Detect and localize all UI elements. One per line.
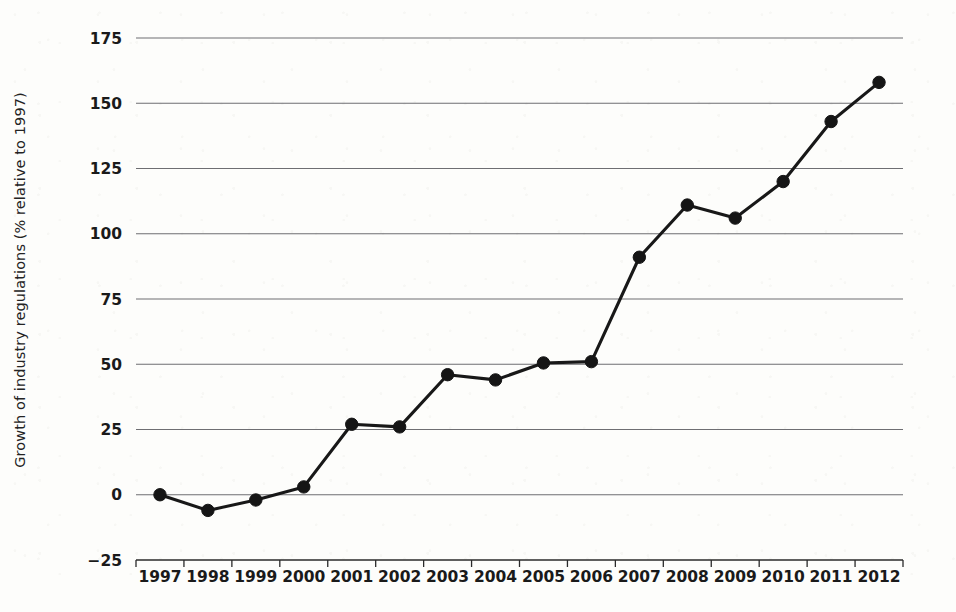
y-axis-tick-label: 125 <box>90 160 122 178</box>
data-point-marker <box>154 489 166 501</box>
y-axis-tick-label: 175 <box>90 30 122 48</box>
x-axis-tick-label: 1999 <box>234 568 277 586</box>
chart-container: Growth of industry regulations (% relati… <box>0 0 956 612</box>
data-point-marker <box>346 418 358 430</box>
data-point-marker <box>777 175 789 187</box>
data-point-marker <box>298 481 310 493</box>
x-axis-tick-labels: 1997199819992000200120022003200420052006… <box>138 568 900 586</box>
x-axis-tick-label: 2007 <box>618 568 661 586</box>
y-axis-tick-label: 75 <box>100 291 122 309</box>
x-axis-tick-label: 2000 <box>282 568 325 586</box>
x-axis-tick-label: 2003 <box>426 568 469 586</box>
x-axis-tick-label: 2011 <box>810 568 853 586</box>
x-axis-tick-label: 2002 <box>378 568 421 586</box>
data-point-marker <box>729 212 741 224</box>
data-point-marker <box>489 374 501 386</box>
data-series-line <box>160 82 879 510</box>
x-axis-tick-label: 2001 <box>330 568 373 586</box>
y-axis-tick-label: 25 <box>100 421 122 439</box>
x-axis-tick-label: 2010 <box>762 568 805 586</box>
data-point-markers <box>154 76 885 516</box>
x-axis-tick-label: 2006 <box>570 568 613 586</box>
data-point-marker <box>441 368 453 380</box>
data-point-marker <box>681 199 693 211</box>
data-point-marker <box>537 357 549 369</box>
data-point-marker <box>202 504 214 516</box>
x-axis-tick-label: 1998 <box>186 568 229 586</box>
x-axis-tick-label: 2012 <box>857 568 900 586</box>
data-point-marker <box>873 76 885 88</box>
y-axis-tick-label: 150 <box>90 95 123 113</box>
gridlines-group <box>136 38 903 495</box>
x-axis-tick-label: 2008 <box>666 568 709 586</box>
y-axis-tick-label: 50 <box>100 356 122 374</box>
data-point-marker <box>633 251 645 263</box>
x-axis-tick-label: 1997 <box>138 568 181 586</box>
y-axis-tick-label: −25 <box>87 552 122 570</box>
data-point-marker <box>393 421 405 433</box>
x-axis-tick-label: 2009 <box>714 568 757 586</box>
x-axis <box>136 560 903 567</box>
data-point-marker <box>825 115 837 127</box>
data-point-marker <box>585 355 597 367</box>
y-axis-tick-label: 100 <box>90 225 123 243</box>
line-chart-plot: −250255075100125150175 19971998199920002… <box>0 0 956 612</box>
series-polyline <box>160 82 879 510</box>
y-axis-tick-label: 0 <box>111 486 122 504</box>
data-point-marker <box>250 494 262 506</box>
y-axis-tick-labels: −250255075100125150175 <box>87 30 122 570</box>
x-axis-tick-label: 2004 <box>474 568 517 586</box>
x-axis-tick-label: 2005 <box>522 568 565 586</box>
